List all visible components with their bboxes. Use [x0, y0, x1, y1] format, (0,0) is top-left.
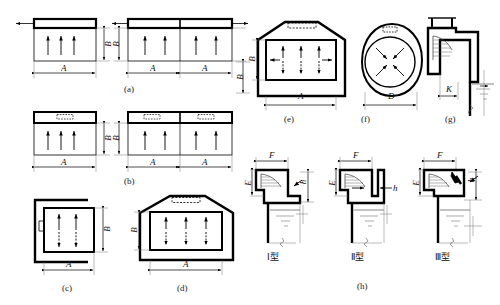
dim-label-a-A2: A [150, 63, 156, 73]
dim-label-a-B3: B [235, 74, 245, 80]
dim-label-h3-h: h [466, 178, 476, 183]
dim-label-c-B: B [102, 226, 112, 232]
dim-label-f-D: D [388, 91, 395, 101]
caption-c: (c) [62, 283, 72, 293]
diagram-sheet: A B A A B B (a) A B A A B (b) A B (c) A … [0, 0, 500, 305]
dim-label-g-K: K [446, 84, 452, 94]
dim-label-d-A: A [183, 259, 189, 269]
panel-h-type3 [418, 157, 482, 247]
dim-label-h3-E: E [411, 180, 421, 186]
dim-label-h3-F: F [437, 150, 443, 160]
dim-label-h1-E: E [243, 180, 253, 186]
panel-a-double-hood [112, 19, 250, 93]
panel-b-single-hood [34, 112, 110, 172]
caption-h: (h) [357, 281, 368, 291]
panel-h-type1 [250, 157, 314, 247]
caption-d: (d) [177, 283, 188, 293]
dim-label-b-A3: A [202, 157, 208, 167]
panel-h-type2 [334, 157, 392, 247]
type-label-3: Ⅲ型 [435, 250, 450, 263]
dim-label-b-B2: B [111, 135, 121, 141]
dim-label-c-A: A [66, 259, 72, 269]
dim-label-b-A1: A [61, 157, 67, 167]
panel-b-double-hood [114, 112, 232, 172]
dim-label-h2-F: F [353, 150, 359, 160]
dim-label-a-A3: A [202, 63, 208, 73]
dim-label-d-B: B [129, 227, 139, 233]
dim-label-e-B: B [247, 56, 257, 62]
dim-label-h2-E: E [327, 180, 337, 186]
caption-b: (b) [124, 176, 135, 186]
panel-g-slot-hood-detail [428, 18, 494, 116]
dim-label-a-A1: A [61, 63, 67, 73]
dim-label-b-A2: A [150, 157, 156, 167]
caption-f: (f) [361, 114, 370, 124]
caption-a: (a) [124, 84, 134, 94]
caption-e: (e) [284, 114, 294, 124]
dim-label-e-A: A [298, 91, 304, 101]
type-label-1: Ⅰ型 [267, 250, 279, 263]
caption-g: (g) [445, 114, 456, 124]
dim-label-h2-h: h [393, 183, 398, 193]
dim-label-a-B2: B [111, 41, 121, 47]
dim-label-h1-F: F [269, 150, 275, 160]
dim-label-h1-h: h [298, 180, 308, 185]
type-label-2: Ⅱ型 [351, 250, 364, 263]
technical-drawing-canvas [0, 0, 500, 305]
